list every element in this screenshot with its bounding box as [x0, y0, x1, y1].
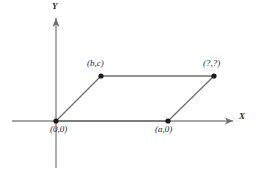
- geometry-diagram: X Y (0,0) (a,0) (b,c) (?,?): [0, 0, 262, 178]
- vertex-label-origin: (0,0): [50, 124, 67, 134]
- vertex-top-right-dot: [211, 73, 216, 78]
- vertex-label-base-right: (a,0): [155, 124, 172, 134]
- vertex-label-top-left: (b,c): [87, 58, 104, 68]
- vertex-base-right-dot: [165, 118, 170, 123]
- y-axis-label: Y: [52, 1, 58, 11]
- edge-base-right-to-top-right: [168, 76, 214, 121]
- edge-top-left-to-origin: [56, 76, 101, 121]
- vertex-origin-dot: [53, 118, 58, 123]
- vertex-top-left-dot: [98, 73, 103, 78]
- vertex-label-top-right-unknown: (?,?): [203, 58, 220, 68]
- diagram-canvas: [0, 0, 262, 178]
- x-axis-label: X: [239, 111, 245, 121]
